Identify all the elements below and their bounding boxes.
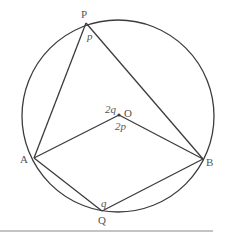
segment-QA <box>34 158 102 211</box>
center-point <box>117 113 120 116</box>
label-O: O <box>124 107 132 119</box>
label-A: A <box>20 153 28 165</box>
angle-2q-at-O: 2q <box>105 103 117 115</box>
label-Q: Q <box>98 214 106 226</box>
label-P: P <box>81 8 87 20</box>
segment-PA <box>34 23 86 158</box>
circle-theorem-diagram: P O A B Q p 2q 2p q <box>0 0 228 240</box>
segment-OB <box>119 115 203 159</box>
segment-PB <box>86 23 203 159</box>
label-B: B <box>206 156 213 168</box>
angle-p-at-P: p <box>86 30 93 42</box>
segment-OA <box>34 115 119 158</box>
segment-QB <box>102 159 203 211</box>
angle-2p-at-O: 2p <box>115 120 127 132</box>
angle-q-at-Q: q <box>101 197 107 209</box>
